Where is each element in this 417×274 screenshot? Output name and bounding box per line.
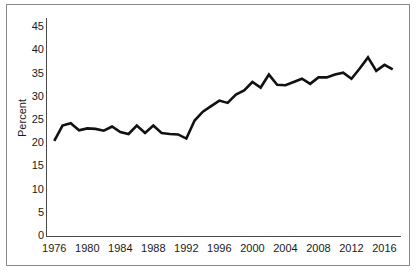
x-tick-label: 1996 xyxy=(207,242,231,254)
x-tick-label: 1976 xyxy=(42,242,66,254)
x-axis-line xyxy=(46,236,401,237)
x-tick-label: 1984 xyxy=(108,242,132,254)
y-tick-label: 0 xyxy=(38,230,44,241)
y-tick-label: 10 xyxy=(32,184,44,195)
x-tick-label: 1988 xyxy=(141,242,165,254)
y-tick-label: 20 xyxy=(32,137,44,148)
y-tick-label: 35 xyxy=(32,68,44,79)
y-tick-label: 15 xyxy=(32,160,44,171)
x-tick-label: 1980 xyxy=(75,242,99,254)
y-tick-label: 5 xyxy=(38,207,44,218)
y-tick-label: 30 xyxy=(32,91,44,102)
x-tick-label: 2012 xyxy=(339,242,363,254)
x-tick-label: 2016 xyxy=(372,242,396,254)
plot-area xyxy=(46,18,401,236)
y-tick-label: 25 xyxy=(32,114,44,125)
x-tick-label: 2004 xyxy=(273,242,297,254)
y-axis-tick-labels: 051015202530354045 xyxy=(8,0,44,274)
data-line-svg xyxy=(46,18,401,236)
y-tick-label: 45 xyxy=(32,21,44,32)
x-tick-label: 1992 xyxy=(174,242,198,254)
chart-figure: Percent 051015202530354045 1976198019841… xyxy=(0,0,417,274)
y-tick-label: 40 xyxy=(32,44,44,55)
series-line-percent xyxy=(54,57,392,140)
x-tick-label: 2000 xyxy=(240,242,264,254)
x-axis-tick-labels: 1976198019841988199219962000200420082012… xyxy=(0,242,417,258)
x-tick-label: 2008 xyxy=(306,242,330,254)
